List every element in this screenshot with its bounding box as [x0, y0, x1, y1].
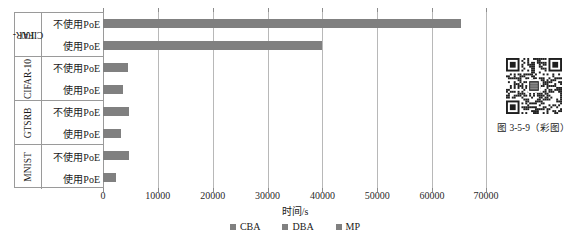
x-tick-label: 70000 [474, 190, 499, 201]
bar [103, 63, 128, 72]
legend-swatch-icon [230, 224, 236, 230]
x-tick-label: 30000 [255, 190, 280, 201]
category-group-label: MNIST [15, 145, 42, 189]
x-tick-label: 50000 [365, 190, 390, 201]
category-group-label: GTSRB [15, 101, 42, 144]
legend-item-cba[interactable]: CBA [230, 221, 261, 232]
bar-slot [103, 144, 129, 166]
category-row-label: 不使用PoE [42, 101, 103, 123]
figure-qr-block: 图 3-5-9（彩图） [496, 0, 571, 241]
x-tick-label: 20000 [200, 190, 225, 201]
bar [103, 129, 121, 138]
category-rows: 不使用PoE 使用PoE [42, 145, 103, 189]
bar [103, 85, 123, 94]
bar [103, 151, 129, 160]
category-group-mnist: MNIST 不使用PoE 使用PoE [15, 145, 103, 189]
figure-caption: 图 3-5-9（彩图） [496, 120, 571, 134]
category-rows: 不使用PoE 使用PoE [42, 57, 103, 100]
category-group-cifar10: CIFAR-10 不使用PoE 使用PoE [15, 57, 103, 101]
legend-label: CBA [240, 221, 261, 232]
x-tick-label: 60000 [420, 190, 445, 201]
category-row-label: 使用PoE [42, 35, 103, 57]
category-group-label: CIFAR-100 [15, 13, 42, 56]
x-axis-title: 时间/s [103, 203, 487, 218]
qr-code-icon[interactable] [506, 58, 562, 114]
bar-slot [103, 12, 461, 34]
figure-root: CIFAR-100 不使用PoE 使用PoE CIFAR-10 不使用PoE 使… [0, 0, 571, 241]
chart-legend: CBA DBA MP [103, 221, 487, 232]
category-row-label: 使用PoE [42, 167, 103, 189]
group-name-line1: CIFAR-10 [23, 59, 33, 99]
bar [103, 41, 322, 50]
category-group-cifar100: CIFAR-100 不使用PoE 使用PoE [15, 13, 103, 57]
legend-item-mp[interactable]: MP [336, 221, 360, 232]
group-name-line1: MNIST [23, 152, 33, 182]
category-row-label: 不使用PoE [42, 145, 103, 167]
bar-chart: CIFAR-100 不使用PoE 使用PoE CIFAR-10 不使用PoE 使… [0, 0, 500, 241]
category-row-label: 使用PoE [42, 79, 103, 101]
category-row-label: 不使用PoE [42, 13, 103, 35]
group-name-line2: 100 [21, 30, 35, 40]
category-group-label: CIFAR-10 [15, 57, 42, 100]
x-tick-label: 40000 [310, 190, 335, 201]
bar-slot [103, 56, 128, 78]
x-tick-label: 0 [101, 190, 106, 201]
bar-slot [103, 34, 322, 56]
bar [103, 173, 116, 182]
bar-slot [103, 100, 129, 122]
category-rows: 不使用PoE 使用PoE [42, 13, 103, 56]
x-tick-label: 10000 [145, 190, 170, 201]
category-row-label: 不使用PoE [42, 57, 103, 79]
legend-label: DBA [292, 221, 313, 232]
bar-slot [103, 78, 123, 100]
group-name-line1: GTSRB [23, 107, 33, 138]
category-rows: 不使用PoE 使用PoE [42, 101, 103, 144]
bar [103, 19, 461, 28]
legend-swatch-icon [336, 224, 342, 230]
bars-layer [103, 12, 487, 188]
category-group-gtsrb: GTSRB 不使用PoE 使用PoE [15, 101, 103, 145]
category-axis: CIFAR-100 不使用PoE 使用PoE CIFAR-10 不使用PoE 使… [14, 12, 103, 188]
legend-swatch-icon [282, 224, 288, 230]
legend-label: MP [346, 221, 360, 232]
bar-slot [103, 166, 116, 188]
bar [103, 107, 129, 116]
legend-item-dba[interactable]: DBA [282, 221, 313, 232]
bar-slot [103, 122, 121, 144]
category-row-label: 使用PoE [42, 123, 103, 145]
